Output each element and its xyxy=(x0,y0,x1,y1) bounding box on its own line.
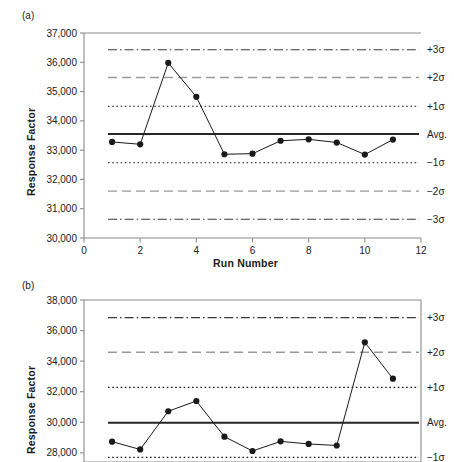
y-tick-label: 31,000 xyxy=(46,203,77,214)
y-tick-label: 30,000 xyxy=(46,233,77,244)
data-point xyxy=(334,442,340,448)
sigma-minus-2-label: −2σ xyxy=(427,186,445,197)
data-point xyxy=(193,398,199,404)
data-point xyxy=(221,151,227,157)
data-point xyxy=(362,339,368,345)
x-tick-label: 0 xyxy=(81,245,87,256)
sigma-minus-1-label: −1σ xyxy=(427,157,445,168)
sigma-plus-3-label: +3σ xyxy=(427,312,445,323)
data-point xyxy=(390,137,396,143)
panel-a-plot: 30,00031,00032,00033,00034,00035,00036,0… xyxy=(0,0,454,272)
average-label: Avg. xyxy=(427,129,447,140)
x-tick-label: 4 xyxy=(194,245,200,256)
data-point xyxy=(137,446,143,452)
x-tick-label: 8 xyxy=(306,245,312,256)
plot-frame xyxy=(84,33,421,238)
data-point xyxy=(109,139,115,145)
y-tick-label: 32,000 xyxy=(46,174,77,185)
control-chart-figure: (a) Response Factor Run Number 30,00031,… xyxy=(0,0,454,462)
x-tick-label: 10 xyxy=(359,245,371,256)
y-tick-label: 38,000 xyxy=(46,295,77,306)
average-line-group: Avg. xyxy=(108,417,447,428)
sigma-plus-1-label: +1σ xyxy=(427,101,445,112)
sigma-plus-2-label: +2σ xyxy=(427,72,445,83)
data-point xyxy=(165,60,171,66)
series-line xyxy=(112,63,393,155)
sigma-plus-1-label: +1σ xyxy=(427,382,445,393)
data-point xyxy=(193,94,199,100)
x-tick-label: 6 xyxy=(250,245,256,256)
data-series xyxy=(109,60,396,158)
panel-a: (a) Response Factor Run Number 30,00031,… xyxy=(0,0,454,272)
data-point xyxy=(306,441,312,447)
y-tick-label: 36,000 xyxy=(46,325,77,336)
sigma-plus-2-label: +2σ xyxy=(427,347,445,358)
data-point xyxy=(137,141,143,147)
data-point xyxy=(109,439,115,445)
data-point xyxy=(165,408,171,414)
series-line xyxy=(112,342,393,451)
sigma-minus-1-label: −1σ xyxy=(427,452,445,462)
average-line-group: Avg. xyxy=(108,129,447,140)
data-point xyxy=(277,438,283,444)
x-tick-label: 12 xyxy=(415,245,427,256)
panel-b: (b) Response Factor 28,00030,00032,00034… xyxy=(0,272,454,462)
data-point xyxy=(362,151,368,157)
sigma-plus-3-label: +3σ xyxy=(427,44,445,55)
data-series xyxy=(109,339,396,454)
x-axis-ticks: 024681012 xyxy=(81,238,427,256)
plot-frame xyxy=(84,300,421,462)
y-axis-ticks: 28,00030,00032,00034,00036,00038,000 xyxy=(46,295,84,459)
data-point xyxy=(277,138,283,144)
data-point xyxy=(221,434,227,440)
data-point xyxy=(334,139,340,145)
y-tick-label: 28,000 xyxy=(46,447,77,458)
data-point xyxy=(249,151,255,157)
panel-b-plot: 28,00030,00032,00034,00036,00038,000+3σ+… xyxy=(0,272,454,462)
y-tick-label: 36,000 xyxy=(46,57,77,68)
x-tick-label: 2 xyxy=(137,245,143,256)
data-point xyxy=(390,376,396,382)
y-tick-label: 30,000 xyxy=(46,417,77,428)
y-tick-label: 34,000 xyxy=(46,356,77,367)
y-tick-label: 34,000 xyxy=(46,115,77,126)
y-axis-ticks: 30,00031,00032,00033,00034,00035,00036,0… xyxy=(46,28,84,244)
data-point xyxy=(306,136,312,142)
y-tick-label: 35,000 xyxy=(46,86,77,97)
y-tick-label: 33,000 xyxy=(46,145,77,156)
y-tick-label: 37,000 xyxy=(46,28,77,39)
data-point xyxy=(249,448,255,454)
y-tick-label: 32,000 xyxy=(46,386,77,397)
average-label: Avg. xyxy=(427,417,447,428)
sigma-minus-3-label: −3σ xyxy=(427,214,445,225)
control-limit-lines: +3σ+2σ+1σ−1σ xyxy=(108,312,445,462)
